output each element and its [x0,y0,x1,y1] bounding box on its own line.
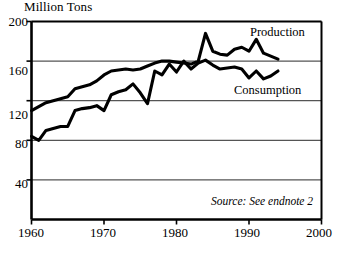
x-axis-tick-label: 1960 [6,226,56,239]
y-axis-tick-label: 40 [0,177,28,190]
series-label-production: Production [250,26,305,39]
y-axis-title: Million Tons [24,0,92,15]
y-axis-tick-label: 200 [0,15,28,28]
series-label-consumption: Consumption [234,84,301,97]
x-axis-tick-label: 1980 [150,226,200,239]
chart-container: Million Tons 200 160 120 80 40 1960 1970… [0,0,345,254]
y-axis-tick-label: 80 [0,137,28,150]
gridlines-group [32,22,322,180]
x-axis-tick-label: 1970 [78,226,128,239]
y-axis-tick-label: 160 [0,64,28,77]
x-axis-tick-label: 2000 [294,226,344,239]
source-note: Source: See endnote 2 [211,195,313,208]
x-axis-tick-label: 1990 [222,226,272,239]
y-axis-tick-label: 120 [0,108,28,121]
